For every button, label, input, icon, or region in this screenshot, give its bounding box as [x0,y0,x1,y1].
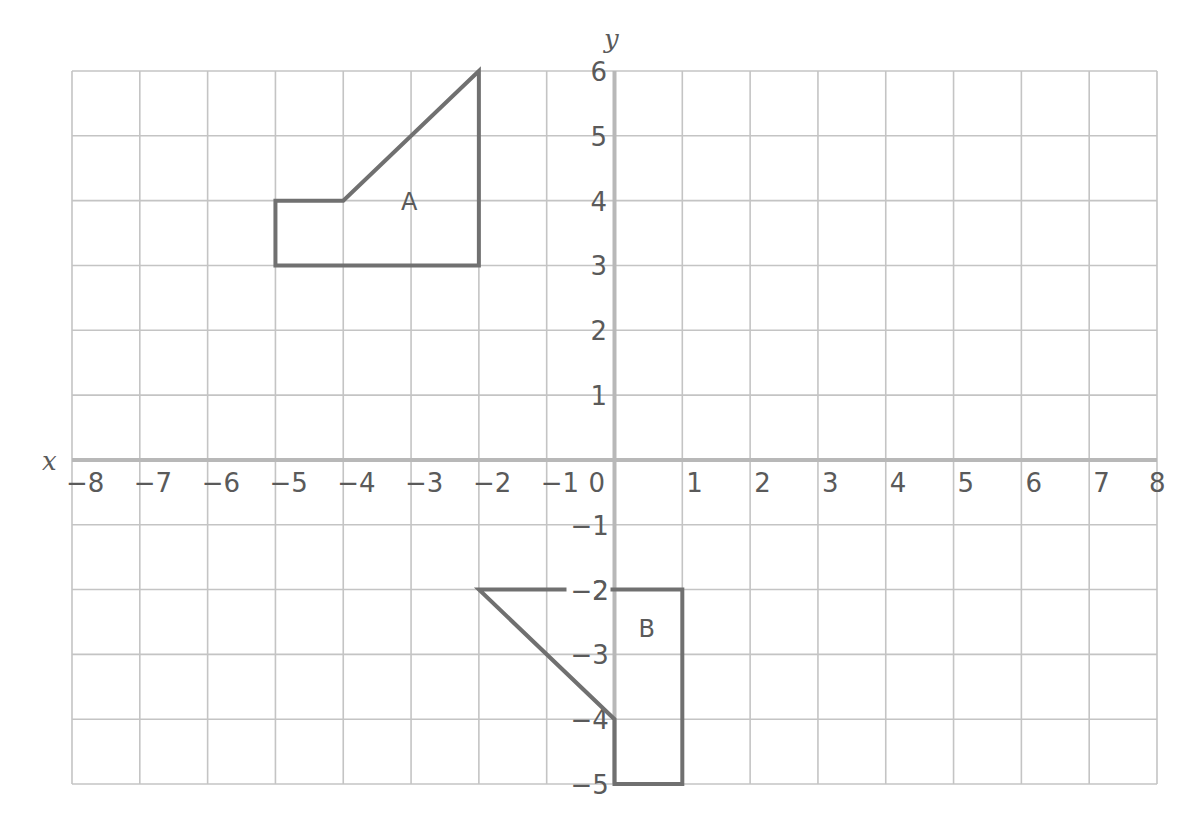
x-tick-label: −4 [337,468,375,498]
y-tick-label: 3 [591,251,608,281]
x-tick-label: 8 [1149,468,1166,498]
y-axis-tick-labels: 654321−1−2−3−4−5 [571,57,609,800]
x-tick-label: 2 [754,468,771,498]
x-tick-label: 6 [1025,468,1042,498]
y-tick-label: 5 [591,122,608,152]
x-tick-label: −3 [405,468,443,498]
x-tick-label: 7 [1093,468,1110,498]
coordinate-grid-diagram: −8−7−6−5−4−3−2−1012345678 654321−1−2−3−4… [0,0,1195,838]
y-tick-label: 4 [591,187,608,217]
shape-label-a: A [401,188,418,216]
y-axis-label: y [603,24,619,54]
x-axis-label: x [42,446,57,476]
y-tick-label: 6 [591,57,608,87]
y-tick-label: −5 [571,770,609,800]
y-tick-label: 2 [591,316,608,346]
x-tick-label: −5 [269,468,307,498]
x-tick-label: 3 [822,468,839,498]
x-tick-label: 1 [686,468,703,498]
shape-label-b: B [638,615,654,643]
x-tick-label: −2 [473,468,511,498]
x-tick-label: 4 [890,468,907,498]
y-tick-label: −2 [571,576,609,606]
y-tick-label: −1 [571,511,609,541]
x-tick-label: 5 [958,468,975,498]
y-tick-label: 1 [591,381,608,411]
x-tick-label: −8 [66,468,104,498]
y-tick-label: −3 [571,640,609,670]
x-tick-label: −1 [541,468,579,498]
x-tick-label: 0 [589,468,606,498]
axes [72,71,1157,784]
x-tick-label: −6 [202,468,240,498]
shape-a [275,71,478,265]
x-tick-label: −7 [134,468,172,498]
